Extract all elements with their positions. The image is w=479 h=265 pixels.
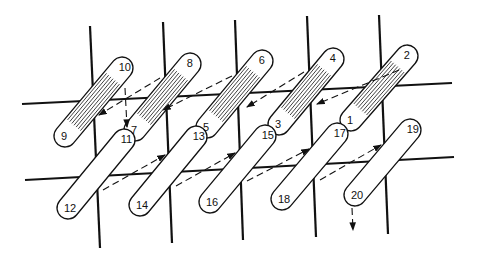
loop-label-15: 15 <box>262 129 274 141</box>
loop-label-17: 17 <box>334 127 346 139</box>
loop-label-18: 18 <box>278 193 290 205</box>
loop-label-4: 4 <box>330 52 336 64</box>
loop-label-11: 11 <box>121 133 132 145</box>
vertical-line-2 <box>163 22 172 243</box>
loop-label-20: 20 <box>351 189 363 201</box>
loop-label-9: 9 <box>61 130 67 142</box>
loop-label-19: 19 <box>407 123 419 135</box>
loop-label-14: 14 <box>136 199 148 211</box>
vertical-line-5 <box>379 15 388 234</box>
vertical-line-4 <box>307 16 316 237</box>
loop-label-2: 2 <box>404 49 410 61</box>
loop-label-16: 16 <box>206 196 218 208</box>
loop-label-8: 8 <box>187 57 193 69</box>
loop-label-1: 1 <box>347 114 353 126</box>
down-arrow-from-20 <box>352 208 353 230</box>
vertical-line-3 <box>235 20 243 240</box>
coil-winding-diagram: 1098765432111121314151617181920 <box>0 0 479 265</box>
vertical-line-1 <box>90 26 100 248</box>
loop-label-3: 3 <box>275 118 281 130</box>
loop-label-6: 6 <box>259 54 265 66</box>
loop-label-10: 10 <box>119 61 131 73</box>
grid-lines <box>22 15 454 248</box>
down-arrow-from-10 <box>125 88 127 127</box>
loop-label-13: 13 <box>193 130 205 142</box>
loop-label-12: 12 <box>64 202 76 214</box>
